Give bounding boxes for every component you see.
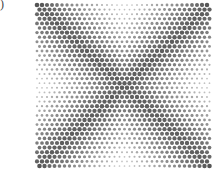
lattice-dot <box>208 110 210 112</box>
lattice-dot <box>45 40 48 43</box>
lattice-dot <box>103 8 105 10</box>
lattice-dot <box>98 26 101 29</box>
lattice-dot <box>70 3 73 6</box>
lattice-dot <box>126 22 128 24</box>
lattice-dot <box>128 137 131 140</box>
lattice-dot <box>168 146 172 150</box>
lattice-dot <box>170 40 174 44</box>
lattice-dot <box>163 100 167 104</box>
lattice-dot <box>93 8 96 11</box>
lattice-dot <box>163 17 166 20</box>
lattice-dot <box>75 150 79 154</box>
lattice-dot <box>188 8 192 12</box>
lattice-dot <box>43 119 46 122</box>
lattice-dot <box>65 40 69 44</box>
lattice-dot <box>200 132 204 136</box>
lattice-dot <box>117 72 121 76</box>
lattice-dot <box>133 156 135 158</box>
lattice-dot <box>200 21 204 25</box>
lattice-dot <box>185 49 189 53</box>
lattice-dot <box>162 118 166 122</box>
lattice-dot <box>205 150 209 154</box>
lattice-dot <box>92 109 96 113</box>
lattice-dot <box>153 81 156 84</box>
lattice-dot <box>77 35 81 39</box>
lattice-dot <box>115 95 119 99</box>
lattice-dot <box>114 9 116 11</box>
lattice-dot <box>177 127 181 131</box>
lattice-dot <box>85 132 89 136</box>
lattice-dot <box>110 67 114 71</box>
lattice-dot <box>155 40 159 44</box>
lattice-dot <box>66 77 69 80</box>
lattice-dot <box>35 159 39 163</box>
lattice-dot <box>55 3 59 7</box>
lattice-dot <box>123 118 126 121</box>
lattice-dot <box>121 4 123 6</box>
lattice-dot <box>147 63 151 67</box>
lattice-dot <box>202 17 206 21</box>
lattice-dot <box>127 72 131 76</box>
lattice-dot <box>47 17 51 21</box>
lattice-dot <box>43 100 45 102</box>
lattice-dot <box>193 136 197 140</box>
lattice-dot <box>39 73 41 75</box>
lattice-dot <box>160 95 164 99</box>
lattice-dot <box>43 26 47 30</box>
lattice-dot <box>150 141 153 144</box>
lattice-dot <box>85 13 88 16</box>
lattice-dot <box>95 132 99 136</box>
lattice-dot <box>93 35 97 39</box>
lattice-dot <box>65 49 69 53</box>
lattice-dot <box>108 118 112 122</box>
lattice-dot <box>148 91 152 95</box>
lattice-dot <box>113 18 115 20</box>
lattice-dot <box>134 9 136 11</box>
lattice-dot <box>103 156 105 158</box>
lattice-dot <box>128 36 131 39</box>
lattice-dot <box>93 91 97 95</box>
lattice-dot <box>183 127 187 131</box>
lattice-dot <box>163 82 166 85</box>
lattice-dot <box>88 155 91 158</box>
lattice-dot <box>165 95 168 98</box>
lattice-dot <box>123 109 127 113</box>
lattice-dot <box>125 114 128 117</box>
lattice-dot <box>65 150 69 154</box>
lattice-dot <box>48 35 52 39</box>
lattice-dot <box>208 119 211 122</box>
lattice-dot <box>160 151 163 154</box>
lattice-dot <box>98 35 101 38</box>
lattice-dot <box>48 73 50 75</box>
lattice-dot <box>195 150 199 154</box>
lattice-dot <box>201 68 203 70</box>
lattice-dot <box>206 123 209 126</box>
lattice-dot <box>48 109 51 112</box>
lattice-dot <box>83 100 87 104</box>
lattice-dot <box>36 59 38 61</box>
lattice-dot <box>65 3 68 6</box>
lattice-dot <box>203 119 206 122</box>
lattice-dot <box>198 26 202 30</box>
lattice-dot <box>58 82 60 84</box>
lattice-dot <box>158 72 162 76</box>
lattice-dot <box>118 100 122 104</box>
lattice-dot <box>96 13 99 16</box>
lattice-dot <box>143 17 146 20</box>
lattice-dot <box>188 82 190 84</box>
lattice-dot <box>90 151 93 154</box>
lattice-dot <box>155 67 159 71</box>
lattice-dot <box>83 63 87 67</box>
lattice-dot <box>142 54 146 58</box>
lattice-dot <box>178 118 182 122</box>
lattice-dot <box>108 9 110 11</box>
lattice-dot <box>58 8 62 12</box>
lattice-dot <box>143 137 146 140</box>
lattice-dot <box>77 54 81 58</box>
lattice-dot <box>158 17 161 20</box>
lattice-dot <box>41 105 43 107</box>
lattice-dot <box>165 68 169 72</box>
lattice-dot <box>133 27 136 30</box>
lattice-dot <box>62 35 66 39</box>
lattice-dot <box>160 40 164 44</box>
